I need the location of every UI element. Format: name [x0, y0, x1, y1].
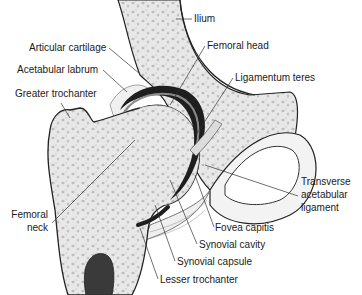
label-synovial-capsule: Synovial capsule [177, 256, 252, 268]
label-femoral-neck-line1: Femoral [4, 209, 48, 221]
label-transverse-acetabular-ligament-line2: acetabular [301, 189, 348, 201]
label-femoral-head: Femoral head [207, 40, 269, 52]
label-ilium: Ilium [194, 13, 215, 25]
label-transverse-acetabular-ligament-line3: ligament [301, 202, 339, 214]
label-articular-cartilage: Articular cartilage [29, 42, 106, 54]
label-greater-trochanter: Greater trochanter [15, 88, 97, 100]
label-fovea-capitis: Fovea capitis [215, 222, 274, 234]
label-acetabular-labrum: Acetabular labrum [17, 64, 98, 76]
label-lesser-trochanter: Lesser trochanter [160, 274, 238, 286]
label-femoral-neck-line2: neck [4, 222, 48, 234]
label-ligamentum-teres: Ligamentum teres [235, 72, 315, 84]
label-transverse-acetabular-ligament-line1: Transverse [301, 176, 351, 188]
label-synovial-cavity: Synovial cavity [199, 239, 265, 251]
